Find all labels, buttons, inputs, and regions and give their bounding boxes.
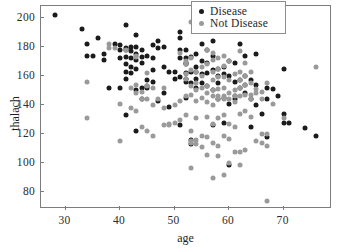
- data-point: [194, 116, 199, 121]
- data-point: [101, 57, 106, 62]
- data-point: [139, 89, 144, 94]
- data-point: [183, 76, 188, 81]
- data-point: [134, 108, 139, 113]
- data-point: [178, 117, 183, 122]
- data-point: [167, 69, 172, 74]
- data-point: [145, 71, 150, 76]
- data-point: [232, 72, 237, 77]
- data-point: [199, 85, 204, 90]
- data-point: [199, 65, 204, 70]
- data-point: [199, 73, 204, 78]
- data-point: [188, 165, 193, 170]
- data-point: [134, 91, 139, 96]
- data-point: [227, 97, 232, 102]
- data-point: [145, 78, 150, 83]
- data-point: [167, 104, 172, 109]
- data-point: [107, 46, 112, 51]
- data-point: [248, 81, 253, 86]
- data-point: [118, 56, 123, 61]
- legend-label: Disease: [210, 5, 247, 17]
- data-point: [265, 199, 270, 204]
- data-point: [178, 36, 183, 41]
- data-point: [243, 148, 248, 153]
- data-point: [199, 95, 204, 100]
- data-point: [238, 78, 243, 83]
- data-point: [238, 111, 243, 116]
- data-point: [248, 124, 253, 129]
- data-point: [254, 52, 259, 57]
- data-point: [254, 139, 259, 144]
- data-point: [188, 92, 193, 97]
- data-point: [167, 123, 172, 128]
- data-point: [243, 92, 248, 97]
- data-point: [205, 91, 210, 96]
- data-point: [259, 89, 264, 94]
- data-point: [194, 98, 199, 103]
- data-point: [221, 133, 226, 138]
- data-point: [238, 69, 243, 74]
- x-axis-tick-label: 50: [168, 214, 180, 226]
- data-point: [123, 22, 128, 27]
- data-point: [259, 111, 264, 116]
- data-point: [150, 85, 155, 90]
- y-axis-tick-mark: [40, 46, 44, 47]
- data-point: [156, 97, 161, 102]
- data-point: [243, 108, 248, 113]
- data-point: [161, 65, 166, 70]
- x-axis-tick-mark: [174, 206, 175, 210]
- data-point: [227, 121, 232, 126]
- data-point: [172, 120, 177, 125]
- data-point: [134, 129, 139, 134]
- data-point: [243, 53, 248, 58]
- data-point: [161, 91, 166, 96]
- data-point: [314, 65, 319, 70]
- data-point: [205, 47, 210, 52]
- data-point: [161, 123, 166, 128]
- data-point: [254, 103, 259, 108]
- plot-area: [40, 5, 331, 208]
- data-point: [188, 56, 193, 61]
- data-point: [123, 113, 128, 118]
- data-point: [188, 129, 193, 134]
- data-point: [139, 124, 144, 129]
- data-point: [265, 143, 270, 148]
- y-axis-title: thalach: [8, 79, 23, 149]
- data-point: [52, 12, 57, 17]
- data-point: [145, 97, 150, 102]
- data-point: [205, 62, 210, 67]
- data-point: [134, 66, 139, 71]
- data-point: [178, 123, 183, 128]
- data-point: [265, 132, 270, 137]
- legend-marker-icon: [199, 21, 204, 26]
- data-point: [123, 69, 128, 74]
- data-point: [150, 56, 155, 61]
- legend: DiseaseNot Disease: [191, 1, 286, 34]
- data-point: [259, 97, 264, 102]
- data-point: [248, 114, 253, 119]
- data-point: [134, 33, 139, 38]
- data-point: [248, 69, 253, 74]
- data-point: [183, 113, 188, 118]
- data-point: [243, 73, 248, 78]
- data-point: [199, 145, 204, 150]
- data-point: [281, 66, 286, 71]
- legend-item[interactable]: Not Disease: [197, 17, 279, 29]
- data-point: [183, 94, 188, 99]
- data-point: [227, 59, 232, 64]
- data-point: [199, 59, 204, 64]
- data-point: [188, 68, 193, 73]
- data-point: [145, 53, 150, 58]
- data-point: [210, 50, 215, 55]
- data-point: [199, 41, 204, 46]
- data-point: [232, 124, 237, 129]
- y-axis-tick-mark: [40, 17, 44, 18]
- data-point: [216, 81, 221, 86]
- data-point: [90, 53, 95, 58]
- data-point: [238, 94, 243, 99]
- data-point: [227, 78, 232, 83]
- data-point: [172, 103, 177, 108]
- data-point: [232, 100, 237, 105]
- legend-item[interactable]: Disease: [197, 5, 279, 17]
- data-point: [134, 54, 139, 59]
- legend-marker-icon: [199, 9, 204, 14]
